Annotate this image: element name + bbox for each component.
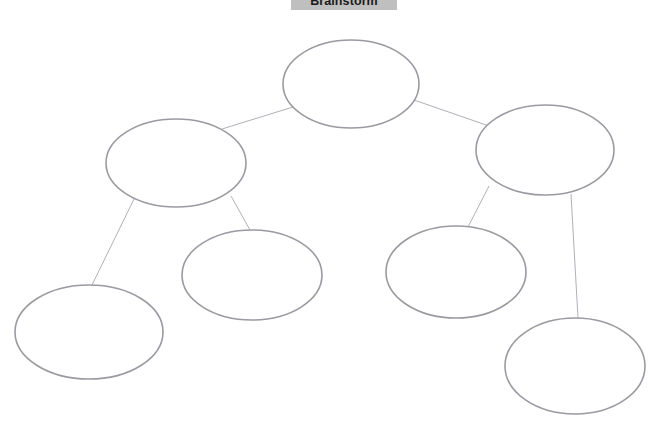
connector-root-to-branch-left <box>222 107 293 129</box>
node-leaf-4[interactable] <box>505 318 645 414</box>
node-branch-right[interactable] <box>476 105 614 195</box>
connector-branch-left-to-leaf-2 <box>231 196 250 230</box>
node-leaf-4-ellipse[interactable] <box>505 318 645 414</box>
node-branch-right-ellipse[interactable] <box>476 105 614 195</box>
node-branch-left-ellipse[interactable] <box>106 119 246 207</box>
node-layer <box>15 40 645 414</box>
connector-branch-right-to-leaf-4 <box>571 194 578 318</box>
node-leaf-2[interactable] <box>182 230 322 320</box>
node-branch-left[interactable] <box>106 119 246 207</box>
node-leaf-3[interactable] <box>386 226 526 318</box>
node-leaf-2-ellipse[interactable] <box>182 230 322 320</box>
node-root[interactable] <box>283 40 419 128</box>
node-leaf-1[interactable] <box>15 285 163 379</box>
node-leaf-1-ellipse[interactable] <box>15 285 163 379</box>
connector-branch-left-to-leaf-1 <box>92 199 134 285</box>
connector-root-to-branch-right <box>414 100 489 126</box>
node-root-ellipse[interactable] <box>283 40 419 128</box>
node-leaf-3-ellipse[interactable] <box>386 226 526 318</box>
brainstorm-canvas[interactable] <box>0 0 663 423</box>
connector-branch-right-to-leaf-3 <box>468 186 489 227</box>
